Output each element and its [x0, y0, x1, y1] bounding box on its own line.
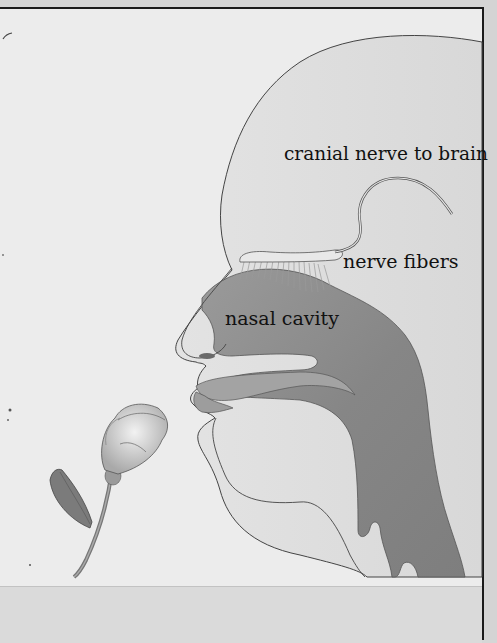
speck: [9, 409, 12, 412]
label-nasal-cavity: nasal cavity: [225, 307, 339, 329]
speck: [2, 254, 4, 256]
speck: [7, 419, 9, 421]
label-nerve-fibers: nerve fibers: [343, 250, 459, 272]
nostril: [199, 353, 215, 359]
rose-bud: [102, 404, 168, 474]
stray-mark: [3, 33, 12, 39]
rose-stem: [74, 470, 112, 577]
label-cranial-nerve: cranial nerve to brain: [284, 143, 488, 164]
speck: [29, 564, 31, 566]
rose-leaf: [50, 469, 92, 528]
